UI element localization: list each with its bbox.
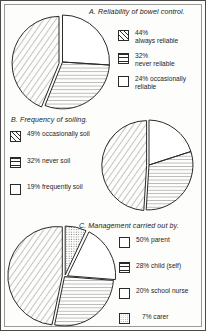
pie-chart-a [7,10,113,114]
legend-item: 24% occasionallyreliable [118,75,204,91]
chart-a-legend: 44%always reliable 32%never reliable 24%… [118,29,204,96]
pie-a-slice-occasionally [63,15,110,65]
legend-value: 44% [135,29,148,36]
chart-panel-a: A. Reliability of bowel control. [1,1,206,113]
legend-desc: always reliable [135,37,178,44]
pie-c-slice-child-self [55,277,114,326]
legend-item: 50% parent [119,236,205,248]
swatch-blank-icon [10,184,21,195]
chart-c-legend: 50% parent 28% child (self) 20% school n… [119,236,205,329]
figure-page: A. Reliability of bowel control. [0,0,206,331]
legend-desc: reliable [135,83,156,90]
swatch-horizontal-hatch-icon [10,157,21,168]
swatch-horizontal-hatch-icon [119,262,130,273]
chart-panel-b: B. Frequency of soiling. 49% occasionall… [1,113,206,213]
chart-b-title: B. Frequency of soiling. [11,116,88,124]
chart-panel-c: C. Management carried out by. [1,213,206,331]
swatch-blank-icon [119,237,130,248]
legend-item: 28% child (self) [119,262,205,274]
pie-chart-c [8,219,120,331]
legend-label: 32% never soil [27,157,70,165]
pie-c-slice-parent [8,227,62,325]
legend-label: 49% occasionally soil [27,130,90,138]
swatch-horizontal-hatch-icon [118,53,129,64]
legend-label: 44%always reliable [135,29,178,45]
legend-label: 50% parent [136,236,170,244]
swatch-blank-icon [119,288,130,299]
pie-chart-b [97,115,201,215]
legend-item: 44%always reliable [118,29,204,45]
legend-label: 19% frequently soil [27,183,83,191]
legend-label: 28% child (self) [136,262,181,270]
legend-value: 32% [135,52,148,59]
swatch-blank-icon [118,76,129,87]
legend-item: 7% carer [119,313,205,325]
swatch-dotted-icon [119,313,130,324]
legend-label: 24% occasionallyreliable [135,75,186,91]
legend-label: 32%never reliable [135,52,175,68]
legend-label: 20% school nurse [136,287,188,295]
legend-item: 32%never reliable [118,52,204,68]
legend-item: 20% school nurse [119,287,205,299]
legend-desc: never reliable [135,60,175,67]
swatch-diagonal-hatch-icon [118,30,129,41]
swatch-diagonal-hatch-icon [10,131,21,142]
legend-value: 24% occasionally [135,75,186,82]
legend-label: 7% carer [136,313,168,321]
pie-b-slice-occasionally [102,121,147,211]
